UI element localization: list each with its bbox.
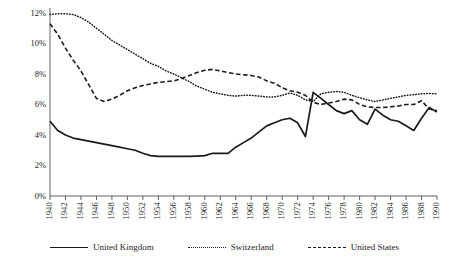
x-tick-label: 1972	[293, 202, 302, 220]
x-axis-ticks	[50, 196, 437, 200]
legend-line-swatch-icon	[50, 243, 88, 252]
x-tick-label: 1964	[231, 202, 240, 220]
y-tick-label: 12%	[20, 9, 46, 18]
x-tick-label: 1958	[184, 202, 193, 220]
x-tick-label: 1968	[262, 202, 271, 220]
x-tick-label: 1942	[60, 202, 69, 220]
legend-label: Switzerland	[231, 242, 274, 252]
x-tick-label: 1982	[370, 202, 379, 220]
x-tick-label: 1962	[215, 202, 224, 220]
x-tick-label: 1974	[308, 202, 317, 220]
x-tick-label: 1976	[324, 202, 333, 220]
y-tick-label: 2%	[20, 161, 46, 170]
legend-line-swatch-icon	[188, 243, 226, 252]
chart-container: Capital/Assets Ratio 0%2%4%6%8%10%12% 19…	[0, 0, 449, 261]
y-axis-tick-labels: 0%2%4%6%8%10%12%	[14, 0, 46, 200]
y-tick-label: 6%	[20, 100, 46, 109]
plot-area	[0, 0, 449, 261]
legend-line-swatch-icon	[308, 243, 346, 252]
x-tick-label: 1950	[122, 202, 131, 220]
x-tick-label: 1948	[107, 202, 116, 220]
x-tick-label: 1988	[417, 202, 426, 220]
x-tick-label: 1986	[401, 202, 410, 220]
x-tick-label: 1978	[339, 202, 348, 220]
series-line-united-kingdom	[50, 92, 437, 156]
legend-item: United Kingdom	[50, 242, 154, 252]
x-tick-label: 1952	[138, 202, 147, 220]
y-tick-label: 10%	[20, 39, 46, 48]
legend-label: United States	[351, 242, 399, 252]
x-tick-label: 1980	[355, 202, 364, 220]
x-tick-label: 1970	[277, 202, 286, 220]
legend-item: Switzerland	[188, 242, 274, 252]
legend-item: United States	[308, 242, 399, 252]
x-tick-label: 1954	[153, 202, 162, 220]
series-line-switzerland	[50, 14, 437, 102]
x-tick-label: 1966	[246, 202, 255, 220]
x-tick-label: 1944	[76, 202, 85, 220]
x-tick-label: 1960	[200, 202, 209, 220]
y-tick-label: 4%	[20, 131, 46, 140]
axis-lines	[50, 8, 437, 196]
x-tick-label: 1990	[432, 202, 441, 220]
legend-label: United Kingdom	[93, 242, 154, 252]
y-tick-label: 8%	[20, 70, 46, 79]
chart-legend: United KingdomSwitzerlandUnited States	[0, 238, 449, 256]
x-tick-label: 1984	[386, 202, 395, 220]
x-tick-label: 1956	[169, 202, 178, 220]
y-tick-label: 0%	[20, 192, 46, 201]
x-tick-label: 1946	[91, 202, 100, 220]
x-tick-label: 1940	[45, 202, 54, 220]
